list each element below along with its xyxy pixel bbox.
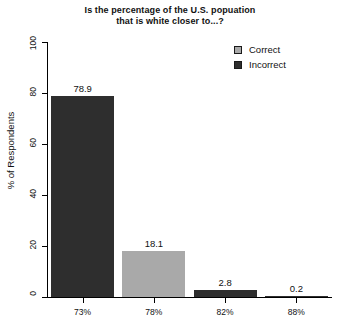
x-axis-tick-mark	[296, 298, 297, 303]
chart-legend: CorrectIncorrect	[234, 43, 334, 73]
legend-item[interactable]: Correct	[234, 43, 334, 57]
y-axis-ticks: 020406080100	[0, 0, 47, 331]
bar[interactable]	[51, 96, 114, 297]
x-axis-tick-mark	[83, 298, 84, 303]
x-axis-tick-mark	[154, 298, 155, 303]
x-axis-tick-label: 78%	[145, 307, 162, 317]
y-axis-tick-label: 20	[28, 240, 39, 249]
bar[interactable]	[265, 296, 328, 298]
legend-swatch	[234, 61, 242, 69]
bar-value-label: 78.9	[73, 83, 92, 94]
y-axis-tick: 40	[0, 195, 47, 196]
legend-label: Correct	[249, 45, 280, 55]
bar-value-label: 18.1	[145, 238, 164, 249]
y-axis-tick: 60	[0, 144, 47, 145]
y-axis-tick-label: 40	[28, 189, 39, 198]
legend-label: Incorrect	[249, 60, 286, 70]
y-axis-tick-label: 80	[28, 87, 39, 96]
chart-title: Is the percentage of the U.S. popuation …	[0, 5, 340, 27]
y-axis-tick-label: 100	[28, 36, 39, 50]
plot-area: 78.918.12.80.2	[47, 42, 332, 297]
bar-value-label: 2.8	[219, 277, 232, 288]
y-axis-tick: 80	[0, 93, 47, 94]
x-axis-tick-label: 82%	[217, 307, 234, 317]
bar[interactable]	[122, 251, 185, 297]
y-axis-tick: 100	[0, 42, 47, 43]
y-axis-tick: 20	[0, 246, 47, 247]
x-axis-tick-label: 88%	[288, 307, 305, 317]
bar-value-label: 0.2	[290, 283, 303, 294]
bar[interactable]	[194, 290, 257, 297]
x-axis-tick-mark	[225, 298, 226, 303]
y-axis-tick-label: 60	[28, 138, 39, 147]
y-axis-tick: 0	[0, 297, 47, 298]
y-axis-tick-label: 0	[28, 291, 39, 296]
legend-item[interactable]: Incorrect	[234, 58, 334, 72]
legend-swatch	[234, 46, 242, 54]
x-axis-line	[48, 297, 332, 298]
x-axis-tick-label: 73%	[74, 307, 91, 317]
